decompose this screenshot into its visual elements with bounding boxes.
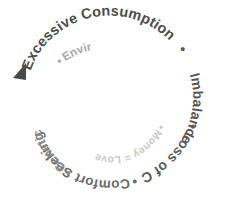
spiral-canvas: Excessive Consumption • Imbalance • Loss…: [0, 0, 226, 218]
spiral-segment-excessive-consumption: Excessive Consumption: [18, 3, 178, 73]
spiral-segment-label-6: Money = Love and Food = Love: [0, 0, 165, 167]
spiral-separator-2: •: [130, 174, 139, 190]
spiral-segment-imbalance: •: [175, 42, 191, 55]
spiral-separator-0: •: [175, 42, 191, 55]
spiral-diagram: Excessive Consumption • Imbalance • Loss…: [0, 0, 226, 218]
spiral-separator-between-2-3: •: [130, 174, 139, 190]
spiral-segment-label-0: Excessive Consumption: [18, 3, 178, 73]
spiral-segment-money-love-food-love: Money = Love and Food = Love: [0, 0, 165, 167]
